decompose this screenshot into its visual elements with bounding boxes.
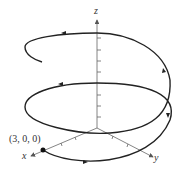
start-point — [41, 148, 46, 153]
helix-diagram — [0, 0, 183, 176]
y-axis — [97, 128, 153, 157]
y-axis-label: y — [154, 152, 158, 163]
point-label: (3, 0, 0) — [9, 133, 41, 144]
z-axis-label: z — [94, 5, 98, 16]
helix-curve — [25, 33, 171, 161]
x-axis-label: x — [22, 150, 26, 161]
